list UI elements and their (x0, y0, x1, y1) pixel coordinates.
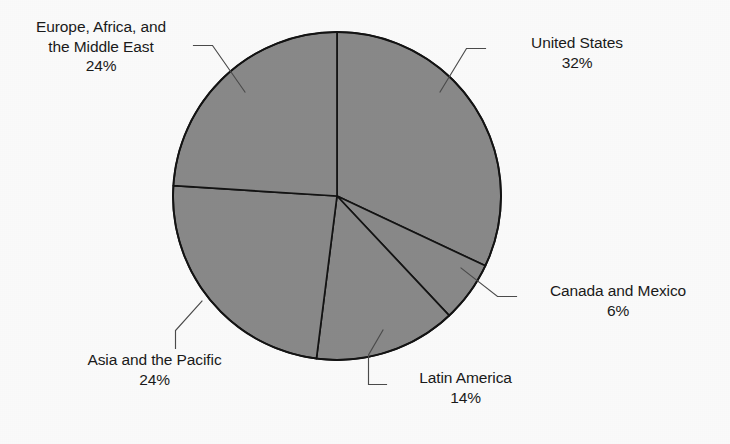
slice-label-europe-africa-middle-east: Europe, Africa, and the Middle East 24% (6, 17, 196, 76)
slice-label-united-states: United States 32% (487, 33, 667, 72)
pie-chart-figure: Europe, Africa, and the Middle East 24% … (0, 0, 730, 444)
slice-label-canada-and-mexico: Canada and Mexico 6% (518, 281, 718, 320)
pie-slice-europe-africa-middle-east (173, 32, 337, 196)
slice-value-canada-and-mexico: 6% (518, 301, 718, 321)
slice-label-line1: Latin America (388, 368, 543, 388)
slice-label-line1: Europe, Africa, and (6, 17, 196, 37)
pie-slice-asia-and-the-pacific (173, 186, 337, 359)
slice-label-line1: United States (487, 33, 667, 53)
slice-value-united-states: 32% (487, 53, 667, 73)
slice-value-europe-africa-middle-east: 24% (6, 56, 196, 76)
slice-label-asia-and-the-pacific: Asia and the Pacific 24% (62, 350, 247, 389)
leader-line-asia-and-the-pacific (176, 301, 203, 349)
slice-label-line2: the Middle East (6, 37, 196, 57)
slice-label-latin-america: Latin America 14% (388, 368, 543, 407)
slice-value-latin-america: 14% (388, 388, 543, 408)
pie-slices-group (173, 32, 501, 360)
slice-label-line1: Asia and the Pacific (62, 350, 247, 370)
slice-label-line1: Canada and Mexico (518, 281, 718, 301)
slice-value-asia-and-the-pacific: 24% (62, 370, 247, 390)
